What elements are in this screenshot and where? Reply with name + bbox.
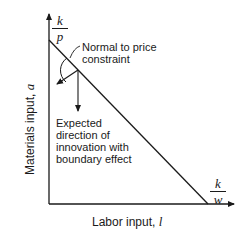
y-intercept-label: k p: [52, 14, 68, 43]
y-intercept-denominator: p: [52, 29, 68, 43]
x-axis-label: Labor input, l: [92, 214, 162, 230]
x-intercept-label: k w: [210, 177, 226, 206]
y-intercept-numerator: k: [52, 14, 68, 29]
normal-annotation-line1: Normal to price: [82, 41, 157, 53]
x-axis-variable: l: [159, 214, 163, 229]
normal-annotation: Normal to price constraint: [82, 41, 157, 65]
expected-annotation-line3: innovation with: [56, 141, 132, 153]
y-axis-label-text: Materials input,: [23, 90, 37, 175]
y-axis-label: Materials input, a: [22, 84, 38, 175]
expected-annotation: Expected direction of innovation with bo…: [56, 117, 132, 165]
expected-annotation-line4: boundary effect: [56, 153, 132, 165]
expected-annotation-line2: direction of: [56, 129, 132, 141]
x-axis-label-text: Labor input,: [92, 215, 159, 229]
x-intercept-numerator: k: [210, 177, 226, 192]
normal-annotation-line2: constraint: [82, 53, 157, 65]
leader-line: [70, 46, 80, 58]
x-intercept-denominator: w: [210, 192, 226, 206]
y-axis-variable: a: [22, 84, 37, 91]
expected-annotation-line1: Expected: [56, 117, 132, 129]
